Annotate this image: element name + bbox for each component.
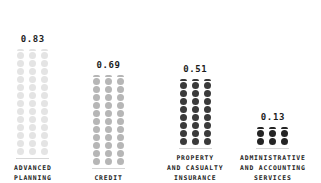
dot-marker [93, 78, 100, 85]
dot-marker [29, 148, 36, 155]
dot-marker [41, 108, 48, 115]
dot-row [17, 124, 48, 131]
dot-stack-property-and-casualty-insurance [180, 79, 211, 145]
dot-marker [180, 106, 187, 113]
dot-marker [17, 148, 24, 155]
dot-marker [192, 106, 199, 113]
dot-marker [41, 116, 48, 123]
dot-row [180, 114, 211, 121]
baseline-rule-property-and-casualty-insurance [179, 148, 212, 149]
dot-column-chart: 0.83ADVANCED PLANNING0.69CREDIT0.51PROPE… [0, 0, 321, 183]
dot-stack-administrative-and-accounting-services [257, 127, 288, 145]
dot-marker [105, 118, 112, 125]
dot-marker [180, 98, 187, 105]
dot-marker [29, 52, 36, 59]
category-label-administrative-and-accounting-services: ADMINISTRATIVE AND ACCOUNTING SERVICES [240, 153, 306, 183]
dot-row [180, 138, 211, 145]
dot-marker [117, 94, 124, 101]
dot-marker [192, 82, 199, 89]
dot-marker [117, 75, 124, 77]
dot-row [17, 92, 48, 99]
dot-marker [41, 140, 48, 147]
dot-marker [204, 130, 211, 137]
dot-marker [180, 122, 187, 129]
dot-marker [257, 138, 264, 145]
dot-marker [29, 68, 36, 75]
dot-marker [29, 60, 36, 67]
dot-row [93, 78, 124, 85]
chart-group-advanced-planning[interactable]: 0.83ADVANCED PLANNING [14, 35, 52, 183]
chart-group-administrative-and-accounting-services[interactable]: 0.13ADMINISTRATIVE AND ACCOUNTING SERVIC… [240, 113, 306, 183]
dot-marker [17, 124, 24, 131]
dot-marker [93, 158, 100, 165]
dot-marker [204, 114, 211, 121]
category-label-credit: CREDIT [94, 173, 122, 183]
category-label-advanced-planning: ADVANCED PLANNING [14, 163, 52, 183]
dot-marker [269, 130, 276, 137]
dot-marker [17, 76, 24, 83]
dot-marker [192, 114, 199, 121]
dot-marker [105, 158, 112, 165]
dot-marker [105, 126, 112, 133]
category-label-property-and-casualty-insurance: PROPERTY AND CASUALTY INSURANCE [167, 153, 223, 183]
dot-marker [17, 100, 24, 107]
dot-marker [180, 114, 187, 121]
dot-marker [192, 98, 199, 105]
dot-row [17, 84, 48, 91]
dot-marker [29, 140, 36, 147]
dot-marker [29, 76, 36, 83]
dot-row [257, 127, 288, 129]
dot-marker [105, 134, 112, 141]
dot-row [17, 100, 48, 107]
dot-marker [17, 84, 24, 91]
dot-marker [29, 124, 36, 131]
dot-marker [17, 140, 24, 147]
dot-marker [192, 130, 199, 137]
dot-marker [204, 79, 211, 81]
value-label-credit: 0.69 [96, 61, 120, 70]
dot-marker [29, 100, 36, 107]
dot-marker [180, 138, 187, 145]
baseline-rule-administrative-and-accounting-services [256, 148, 289, 149]
dot-marker [180, 130, 187, 137]
dot-row [93, 158, 124, 165]
dot-row [17, 52, 48, 59]
dot-marker [117, 86, 124, 93]
dot-row [257, 138, 288, 145]
dot-marker [17, 108, 24, 115]
dot-marker [41, 49, 48, 51]
dot-row [93, 134, 124, 141]
dot-marker [93, 142, 100, 149]
dot-marker [29, 49, 36, 51]
dot-marker [105, 86, 112, 93]
dot-marker [29, 116, 36, 123]
dot-marker [105, 75, 112, 77]
dot-row [17, 116, 48, 123]
dot-stack-advanced-planning [17, 49, 48, 155]
dot-marker [105, 110, 112, 117]
dot-marker [192, 79, 199, 81]
dot-marker [204, 90, 211, 97]
dot-marker [117, 134, 124, 141]
dot-marker [41, 92, 48, 99]
dot-row [93, 126, 124, 133]
chart-group-credit[interactable]: 0.69CREDIT [92, 61, 125, 183]
dot-marker [117, 110, 124, 117]
dot-row [17, 76, 48, 83]
dot-row [93, 86, 124, 93]
dot-row [17, 132, 48, 139]
chart-group-property-and-casualty-insurance[interactable]: 0.51PROPERTY AND CASUALTY INSURANCE [167, 65, 223, 183]
dot-marker [281, 127, 288, 129]
dot-row [93, 110, 124, 117]
dot-row [180, 82, 211, 89]
dot-row [180, 122, 211, 129]
dot-marker [41, 76, 48, 83]
dot-row [17, 140, 48, 147]
dot-row [17, 108, 48, 115]
dot-marker [41, 100, 48, 107]
dot-marker [41, 148, 48, 155]
dot-marker [17, 52, 24, 59]
dot-marker [180, 79, 187, 81]
dot-row [180, 130, 211, 137]
dot-marker [105, 150, 112, 157]
